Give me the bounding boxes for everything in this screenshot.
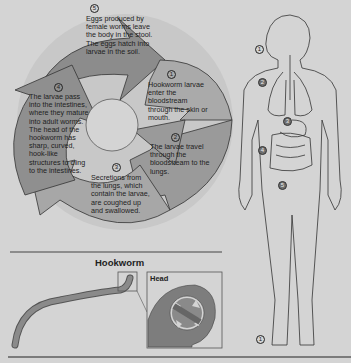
- body-marker-stomach: 3: [283, 117, 292, 126]
- human-body-outline: [239, 15, 341, 345]
- step-4-number: 4: [54, 83, 63, 92]
- body-marker-intestines: 4: [258, 146, 267, 155]
- body-marker-lungs: 2: [258, 78, 267, 87]
- step-3-number: 3: [112, 163, 121, 172]
- step-5-text: Eggs produced by female worms leave the …: [86, 15, 158, 56]
- body-marker-lower-abdomen: 5: [278, 181, 287, 190]
- step-2-number: 2: [171, 133, 180, 142]
- step-5-number: 5: [90, 4, 99, 13]
- body-marker-mouth: 1: [255, 45, 264, 54]
- step-3-text: Secretions from the lungs, which contain…: [91, 174, 151, 215]
- step-1-text: Hookworm larvae enter the bloodstream th…: [148, 81, 210, 122]
- hookworm-title: Hookworm: [95, 257, 144, 268]
- step-2-text: The larvae travel through the bloodstrea…: [150, 143, 212, 176]
- step-4-text: The larvae pass into the intestines, whe…: [29, 93, 91, 175]
- body-marker-foot: 1: [256, 335, 265, 344]
- cycle-arrows: [0, 0, 351, 363]
- head-inset-label: Head: [150, 274, 168, 283]
- step-1-number: 1: [167, 70, 176, 79]
- hookworm-life-cycle-figure: 5 Eggs produced by female worms leave th…: [0, 0, 351, 363]
